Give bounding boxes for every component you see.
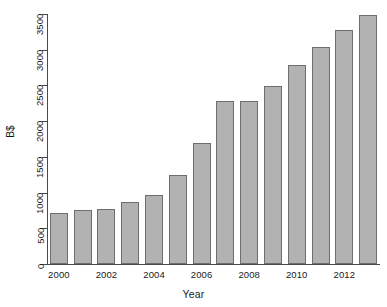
x-tick-label: 2004 [134,269,174,280]
bar [264,86,282,264]
bar [335,30,353,264]
x-axis-label: Year [0,288,387,300]
bar [240,101,258,264]
x-tick-label: 2002 [86,269,126,280]
bar [288,65,306,264]
bar [97,209,115,264]
bar [145,195,163,264]
x-tick-label: 2008 [229,269,269,280]
x-axis-line [47,264,380,265]
x-tick-label: 2010 [277,269,317,280]
x-tick-label: 2006 [182,269,222,280]
bar [216,101,234,264]
bar [121,202,139,264]
x-tick-label: 2012 [324,269,364,280]
bar [193,143,211,264]
x-tick-label: 2000 [39,269,79,280]
bar [312,47,330,264]
bar [50,213,68,264]
bar [74,210,92,264]
plot-area [0,0,387,307]
bar [169,175,187,264]
bar [359,15,377,264]
bar-chart: B$ 0500100015002000250030003500 20002002… [0,0,387,307]
